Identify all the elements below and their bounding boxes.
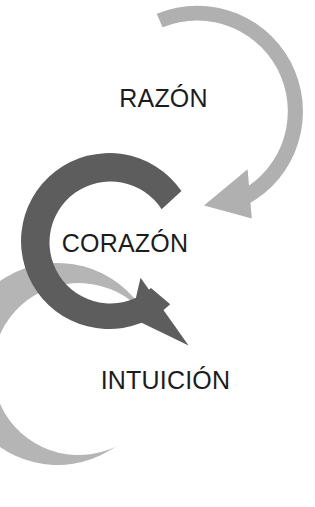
razon-arrow — [157, 6, 303, 219]
cycle-diagram: RAZÓN CORAZÓN INTUICIÓN — [0, 0, 315, 507]
label-intuicion: INTUICIÓN — [8, 368, 315, 393]
label-corazon: CORAZÓN — [0, 231, 250, 256]
label-razon: RAZÓN — [6, 86, 315, 111]
corazon-arrowhead — [131, 278, 188, 346]
razon-arrowhead — [204, 169, 252, 218]
